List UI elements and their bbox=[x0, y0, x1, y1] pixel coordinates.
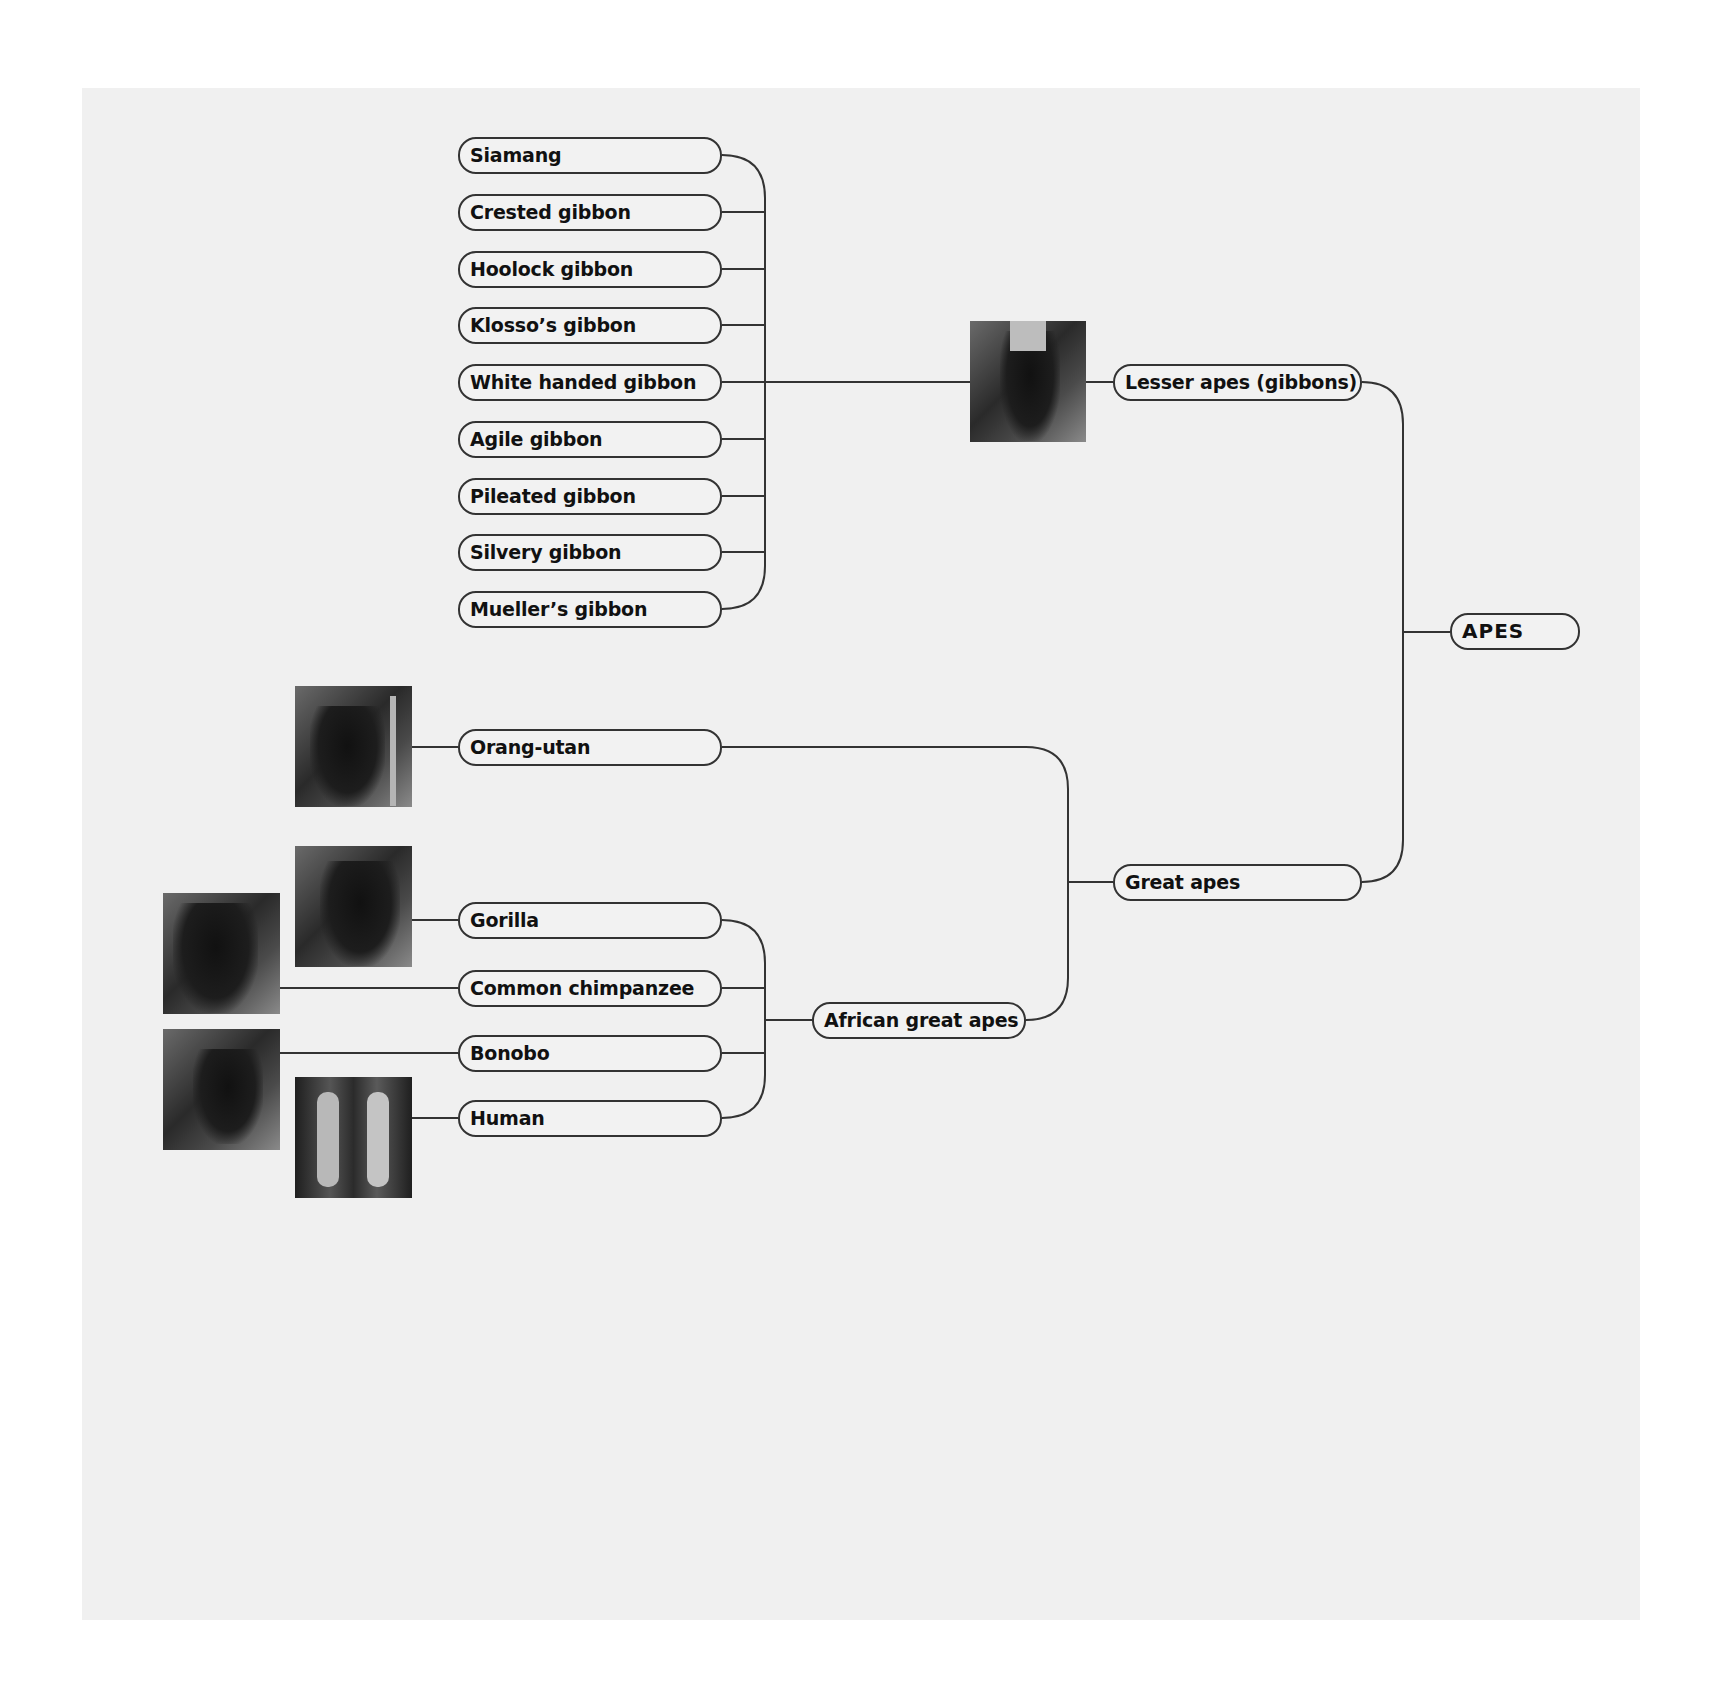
node-label: Pileated gibbon bbox=[470, 485, 636, 507]
gorilla-photo bbox=[295, 846, 412, 967]
node-label: White handed gibbon bbox=[470, 371, 696, 393]
node-african-great-apes[interactable]: African great apes bbox=[812, 1002, 1026, 1039]
orangutan-photo bbox=[295, 686, 412, 807]
node-label: Common chimpanzee bbox=[470, 977, 694, 999]
bonobo-photo bbox=[163, 1029, 280, 1150]
node-hoolock-gibbon[interactable]: Hoolock gibbon bbox=[458, 251, 722, 288]
node-label: Silvery gibbon bbox=[470, 541, 621, 563]
node-white-handed-gibbon[interactable]: White handed gibbon bbox=[458, 364, 722, 401]
node-label: Mueller’s gibbon bbox=[470, 598, 647, 620]
chimpanzee-photo bbox=[163, 893, 280, 1014]
node-label: Orang-utan bbox=[470, 736, 590, 758]
node-pileated-gibbon[interactable]: Pileated gibbon bbox=[458, 478, 722, 515]
gibbon-photo bbox=[970, 321, 1086, 442]
node-label: Crested gibbon bbox=[470, 201, 631, 223]
node-lesser-apes[interactable]: Lesser apes (gibbons) bbox=[1113, 364, 1362, 401]
node-crested-gibbon[interactable]: Crested gibbon bbox=[458, 194, 722, 231]
node-label: Human bbox=[470, 1107, 545, 1129]
node-label: APES bbox=[1462, 619, 1524, 643]
human-photo bbox=[295, 1077, 412, 1198]
node-muellers-gibbon[interactable]: Mueller’s gibbon bbox=[458, 591, 722, 628]
node-apes-root[interactable]: APES bbox=[1450, 613, 1580, 650]
node-agile-gibbon[interactable]: Agile gibbon bbox=[458, 421, 722, 458]
photo-figure bbox=[317, 1092, 339, 1187]
node-common-chimpanzee[interactable]: Common chimpanzee bbox=[458, 970, 722, 1007]
node-label: Siamang bbox=[470, 144, 561, 166]
tree-connector-lines bbox=[0, 0, 1722, 1701]
node-label: African great apes bbox=[824, 1009, 1018, 1031]
node-great-apes[interactable]: Great apes bbox=[1113, 864, 1362, 901]
node-gorilla[interactable]: Gorilla bbox=[458, 902, 722, 939]
node-label: Great apes bbox=[1125, 871, 1240, 893]
node-label: Gorilla bbox=[470, 909, 539, 931]
node-klossos-gibbon[interactable]: Klosso’s gibbon bbox=[458, 307, 722, 344]
photo-figure bbox=[367, 1092, 389, 1187]
node-siamang[interactable]: Siamang bbox=[458, 137, 722, 174]
node-silvery-gibbon[interactable]: Silvery gibbon bbox=[458, 534, 722, 571]
node-label: Lesser apes (gibbons) bbox=[1125, 371, 1357, 393]
node-label: Klosso’s gibbon bbox=[470, 314, 636, 336]
node-bonobo[interactable]: Bonobo bbox=[458, 1035, 722, 1072]
node-label: Hoolock gibbon bbox=[470, 258, 633, 280]
photo-highlight bbox=[1010, 321, 1046, 351]
node-label: Bonobo bbox=[470, 1042, 550, 1064]
node-label: Agile gibbon bbox=[470, 428, 602, 450]
photo-branch bbox=[390, 696, 396, 806]
node-human[interactable]: Human bbox=[458, 1100, 722, 1137]
node-orang-utan[interactable]: Orang-utan bbox=[458, 729, 722, 766]
